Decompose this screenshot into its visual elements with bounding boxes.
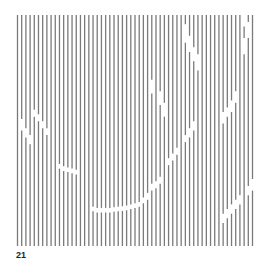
line-pattern-figure (0, 0, 269, 267)
vertical-lines-group (18, 15, 253, 246)
figure-number-label: 21 (16, 250, 26, 260)
